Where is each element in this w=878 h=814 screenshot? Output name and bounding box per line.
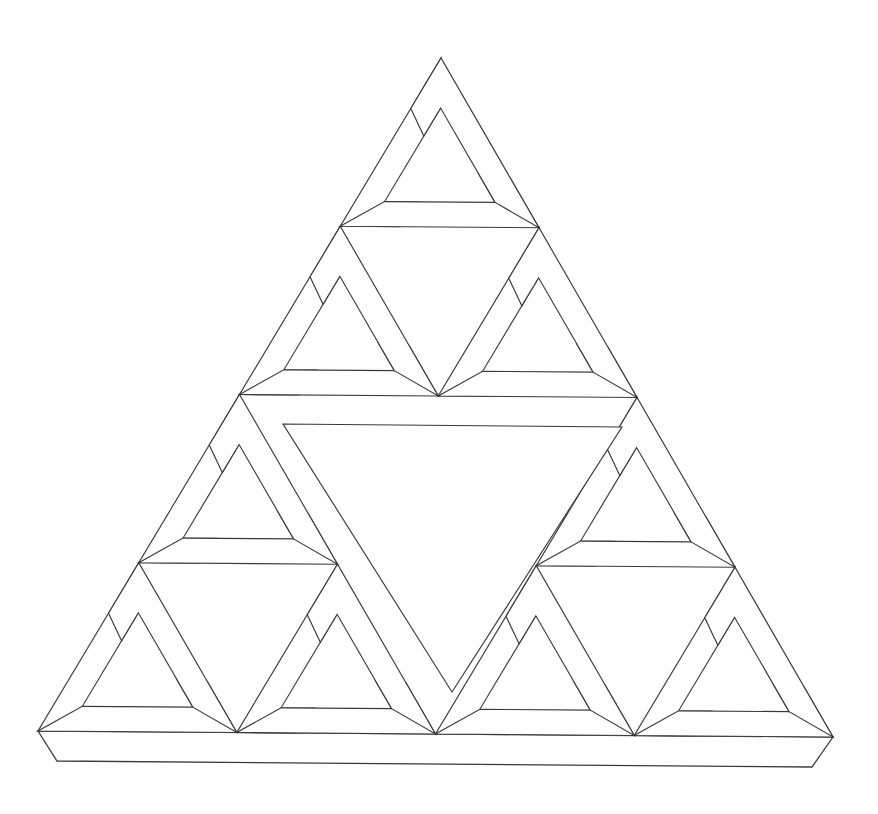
impossible-triangle-rll [38, 563, 237, 733]
recursive-penrose-triangle-figure [0, 0, 878, 814]
impossible-triangles-group [38, 58, 833, 737]
impossible-triangle-rtt [340, 58, 539, 228]
impossible-triangle-rtr [438, 228, 637, 398]
drawing-canvas [0, 0, 878, 814]
impossible-triangle-rrr [634, 567, 833, 737]
impossible-triangle-rlt [139, 395, 338, 565]
impossible-triangle-rtl [240, 226, 439, 396]
